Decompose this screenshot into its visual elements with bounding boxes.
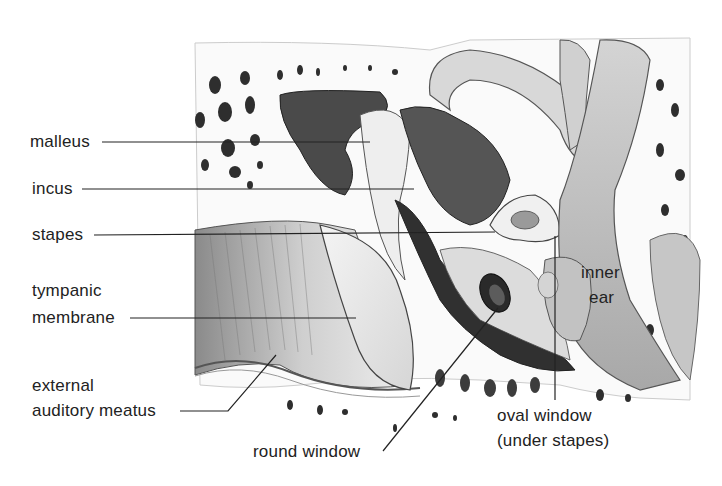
label-incus: incus — [32, 178, 73, 200]
label-oval-window-line1: oval window — [497, 405, 592, 427]
label-malleus: malleus — [30, 131, 90, 153]
label-stapes: stapes — [32, 224, 83, 246]
label-tympanic-line1: tympanic — [32, 280, 102, 302]
label-external-line2: auditory meatus — [32, 400, 156, 422]
label-tympanic-line2: membrane — [32, 307, 115, 329]
label-inner-ear-line2: ear — [589, 287, 614, 309]
label-external-line1: external — [32, 375, 94, 397]
label-round-window: round window — [253, 441, 360, 463]
label-oval-window-line2: (under stapes) — [497, 430, 609, 452]
label-inner-ear-line1: inner — [581, 262, 620, 284]
